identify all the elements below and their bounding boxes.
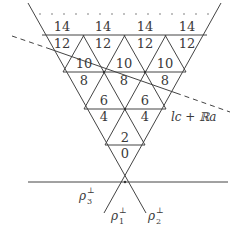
label-12: 12	[54, 36, 71, 51]
label-12: 12	[179, 36, 196, 51]
label-10: 10	[157, 56, 174, 71]
label-8: 8	[120, 73, 128, 88]
label-10: 10	[116, 56, 133, 71]
rho1-label: ρ ⊥ 1	[110, 206, 127, 226]
label-12: 12	[137, 36, 154, 51]
label-6: 6	[141, 93, 149, 108]
row-labels: 14 14 14 14 12 12 12 12 10 10 10 8 8 8 6…	[54, 19, 196, 161]
label-10: 10	[76, 56, 93, 71]
rho2-symbol: ρ	[147, 209, 155, 223]
lattice-lines	[28, 3, 228, 213]
lattice-diagram: 14 14 14 14 12 12 12 12 10 10 10 8 8 8 6…	[0, 0, 242, 231]
label-8: 8	[161, 73, 169, 88]
label-6: 6	[100, 93, 108, 108]
rho1-symbol: ρ	[110, 209, 118, 223]
line-label: lc + ℝa	[171, 110, 216, 124]
label-4: 4	[100, 109, 108, 124]
rho3-perp: ⊥	[87, 186, 95, 195]
label-14: 14	[54, 19, 71, 34]
label-2: 2	[121, 130, 129, 145]
label-14: 14	[137, 19, 154, 34]
continuation-dots	[39, 13, 208, 14]
rho2-sub: 2	[156, 217, 161, 226]
rho1-sub: 1	[119, 217, 124, 226]
rho2-label: ρ ⊥ 2	[147, 206, 164, 226]
rho1-perp: ⊥	[119, 206, 127, 215]
label-14: 14	[179, 19, 196, 34]
dashed-line-left	[12, 36, 50, 49]
diagram-canvas: 14 14 14 14 12 12 12 12 10 10 10 8 8 8 6…	[0, 0, 242, 231]
label-0: 0	[121, 146, 129, 161]
rho3-label: ρ ⊥ 3	[78, 186, 95, 206]
label-12: 12	[95, 36, 112, 51]
label-8: 8	[80, 73, 88, 88]
rho3-symbol: ρ	[78, 189, 86, 203]
rho2-perp: ⊥	[156, 206, 164, 215]
rho3-sub: 3	[87, 197, 92, 206]
label-14: 14	[95, 19, 112, 34]
label-4: 4	[141, 109, 149, 124]
